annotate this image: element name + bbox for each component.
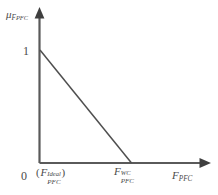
y-axis-sub-sub: PFC [16, 14, 28, 21]
ideal-superscript: Ideal [47, 171, 61, 178]
y-tick-label-1: 1 [23, 45, 29, 57]
x-marker-ideal: ( FIdealPFCPFC ) [36, 167, 65, 178]
x-axis-subscript: PFC [179, 175, 193, 183]
ideal-symbol-stack: FIdealPFCPFC [41, 167, 61, 178]
close-paren: ) [62, 166, 66, 178]
x-axis-title: FPFC [172, 170, 192, 183]
wc-subscript: PFC [121, 178, 134, 185]
wc-base: F [114, 165, 121, 177]
origin-label-0: 0 [21, 170, 27, 182]
x-axis-arrowhead [200, 158, 212, 168]
wc-superscript: WC [121, 170, 131, 177]
ideal-subscript: PFC [47, 179, 60, 186]
y-axis-title: μFPFC [6, 9, 28, 22]
y-axis-arrowhead [35, 7, 45, 19]
x-marker-wc: FWCPFCPFC [114, 166, 134, 177]
x-axis-base: F [172, 169, 179, 181]
plot-canvas [0, 0, 218, 195]
open-paren: ( [36, 166, 40, 178]
membership-ramp-line [40, 50, 132, 163]
wc-symbol-stack: FWCPFCPFC [114, 166, 134, 177]
membership-function-figure: μFPFC 1 0 ( FIdealPFCPFC ) FWCPFCPFC FPF… [0, 0, 218, 195]
